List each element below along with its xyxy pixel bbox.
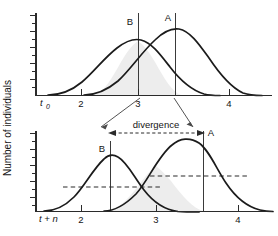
x-tick-label-bottom-4: 4 [235, 214, 240, 225]
curve-label-b-top: B [127, 16, 133, 27]
figure-container: Number of individuals B A [0, 0, 278, 236]
y-axis-label: Number of individuals [2, 80, 13, 176]
curve-a-bottom [104, 139, 273, 211]
x-tick-label-top-4: 4 [226, 98, 231, 109]
figure-canvas: Number of individuals B A [0, 0, 278, 236]
divergence-arrowhead-right [197, 130, 205, 136]
y-ticks-top [30, 15, 36, 87]
panel-top: B A [30, 12, 272, 110]
curve-label-a-top: A [165, 12, 172, 23]
time-label-top-subscript: 0 [46, 103, 50, 110]
time-label-bottom: t + n [39, 213, 58, 224]
curve-label-b-bottom: B [99, 143, 105, 154]
x-tick-label-bottom-3: 3 [153, 214, 158, 225]
x-tick-label-top-2: 2 [78, 98, 83, 109]
x-tick-label-bottom-2: 2 [78, 214, 83, 225]
divergence-label: divergence [133, 119, 179, 130]
pointer-arrowhead-to-a [187, 122, 194, 127]
time-label-top: t [40, 97, 43, 108]
curve-label-a-bottom: A [208, 127, 215, 138]
curve-a-top [84, 29, 262, 96]
divergence-annotation-group: divergence [108, 119, 205, 136]
panel-bottom: B A divergence [30, 119, 273, 225]
y-ticks-bottom [30, 133, 36, 205]
y-axis-label-group: Number of individuals [2, 80, 13, 176]
divergence-arrowhead-left [108, 130, 116, 136]
